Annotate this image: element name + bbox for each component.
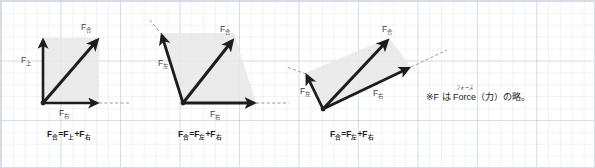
- dashed-extension-3b: [411, 50, 447, 67]
- footnote-mark: ※: [426, 92, 434, 102]
- origin-dot-1: [41, 101, 46, 106]
- footnote-power: 力: [485, 92, 494, 102]
- vector-label-resultant-1: F合: [81, 23, 91, 32]
- footnote-force: Force: [453, 92, 476, 102]
- footnote-tail: の略。: [503, 92, 530, 102]
- dashed-extension-2a: [149, 19, 162, 35]
- footnote: ※F は フォースForce（力）の略。: [426, 93, 530, 102]
- vector-label-upper-right-3: F右: [373, 89, 383, 98]
- footnote-furigana: フォース: [453, 86, 476, 90]
- origin-dot-3: [321, 107, 326, 112]
- diagram-3: [287, 38, 447, 111]
- origin-dot-2: [181, 101, 186, 106]
- caption-equation-3: F合=F左+F右: [330, 130, 374, 139]
- vector-label-upper-left-3: F左: [300, 87, 310, 96]
- footnote-particle: は: [442, 92, 451, 102]
- footnote-f: F: [434, 92, 440, 102]
- vector-label-resultant-2: F合: [220, 25, 230, 34]
- diagram-1: [41, 38, 131, 105]
- footnote-paren-close: ）: [494, 92, 503, 102]
- vector-label-upper-left-2: F左: [158, 59, 168, 68]
- vector-label-right-2: F右: [210, 110, 220, 119]
- vector-label-resultant-3: F合: [382, 25, 392, 34]
- caption-equation-1: F合=F上+F右: [47, 130, 91, 139]
- parallelogram-shade-2: [161, 33, 256, 103]
- footnote-paren-open: （: [476, 92, 485, 102]
- diagram-2: [149, 19, 289, 105]
- figure-canvas: F上 F右 F合 F左 F右 F合 F左 F右 F合 F合=F上+F右 F合=F…: [0, 0, 595, 168]
- dashed-extension-3a: [287, 67, 306, 74]
- vector-label-right-1: F右: [59, 109, 69, 118]
- caption-equation-2: F合=F左+F右: [178, 130, 222, 139]
- footnote-force-ruby: フォースForce: [453, 93, 476, 102]
- vector-label-up-1: F上: [21, 56, 31, 65]
